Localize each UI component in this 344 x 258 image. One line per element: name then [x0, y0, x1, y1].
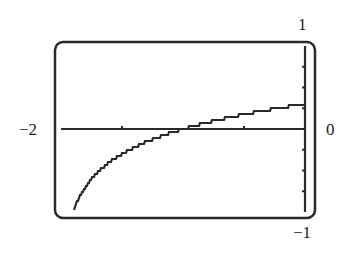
y-max-label: 1: [298, 16, 307, 33]
y-min-label: −1: [293, 224, 311, 241]
x-max-label: 0: [326, 121, 335, 138]
function-curve: [74, 105, 305, 210]
graph-canvas: [0, 0, 344, 258]
x-min-label: −2: [19, 121, 37, 138]
